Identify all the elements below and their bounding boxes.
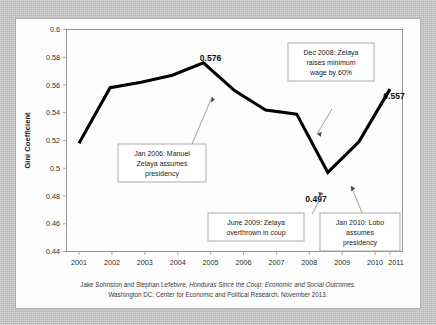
- citation-line-2: Washington DC: Center for Economic and P…: [108, 291, 327, 299]
- annotation-line: overthrown in coup: [226, 229, 285, 237]
- chart-figure: 0.6 0.58 0.56 0.54 0.52 0.5 0.48 0.46 0.…: [16, 19, 420, 308]
- annotation-line: June 2009: Zelaya: [227, 219, 285, 227]
- annotation-line: raises minimum: [306, 59, 355, 66]
- annotation-line: Dec 2008: Zelaya: [304, 49, 359, 57]
- y-tick-label: 0.5: [50, 164, 60, 173]
- x-tick-label: 2004: [170, 258, 186, 267]
- data-label-final: 0.557: [383, 91, 405, 101]
- x-tick-label: 2008: [301, 258, 317, 267]
- y-tick-label: 0.44: [46, 247, 60, 256]
- annotation-line: assumes: [346, 229, 375, 236]
- citation-period: .: [354, 281, 356, 288]
- annotation-line: wage by 60%: [309, 69, 352, 77]
- citation-line-1: Jake Sohnston and Stephan Lefebvre, Hond…: [80, 281, 356, 289]
- annotation-dec-2008[interactable]: Dec 2008: Zelaya raises minimum wage by …: [288, 43, 374, 81]
- x-axis: 2001 2002 2003 2004 2005 2006 2007 2008 …: [71, 252, 404, 268]
- annotation-line: presidency: [343, 239, 377, 247]
- annotation-line: Jan 2010: Lobo: [336, 219, 384, 226]
- x-tick-label: 2011: [388, 258, 403, 267]
- x-tick-label: 2005: [203, 258, 219, 267]
- y-tick-label: 0.52: [46, 136, 60, 145]
- source-citation: Jake Sohnston and Stephan Lefebvre, Hond…: [80, 281, 356, 299]
- chart-card: 0.6 0.58 0.56 0.54 0.52 0.5 0.48 0.46 0.…: [16, 19, 420, 308]
- annotation-june-2009[interactable]: June 2009: Zelaya overthrown in coup: [208, 213, 304, 241]
- y-tick-label: 0.58: [46, 53, 60, 62]
- annotation-line: presidency: [145, 170, 179, 178]
- x-tick-label: 2009: [334, 258, 350, 267]
- gini-line-chart: 0.6 0.58 0.56 0.54 0.52 0.5 0.48 0.46 0.…: [16, 19, 420, 308]
- y-tick-label: 0.54: [46, 108, 60, 117]
- y-tick-label: 0.46: [46, 219, 60, 228]
- y-tick-label: 0.48: [46, 192, 60, 201]
- annotation-leaders: [192, 97, 363, 215]
- annotation-line: Jan 2006: Manuel: [134, 150, 190, 157]
- data-label-peak: 0.576: [200, 53, 222, 63]
- citation-title: Honduras Since the Coup: Economic and So…: [189, 281, 355, 289]
- x-tick-label: 2010: [367, 258, 383, 267]
- x-tick-label: 2002: [104, 258, 120, 267]
- citation-authors: Jake Sohnston and Stephan Lefebvre,: [80, 281, 189, 289]
- y-axis-title: Gini Coefficient: [23, 112, 32, 169]
- x-tick-label: 2006: [236, 258, 252, 267]
- x-tick-label: 2007: [268, 258, 284, 267]
- x-tick-label: 2003: [137, 258, 153, 267]
- annotation-jan-2006[interactable]: Jan 2006: Manuel Zelaya assumes presiden…: [118, 144, 206, 182]
- x-tick-label: 2001: [71, 258, 87, 267]
- data-label-trough: 0.497: [305, 194, 327, 204]
- annotation-line: Zelaya assumes: [137, 160, 188, 168]
- y-axis: 0.6 0.58 0.56 0.54 0.52 0.5 0.48 0.46 0.…: [46, 25, 67, 256]
- y-tick-label: 0.56: [46, 81, 60, 90]
- y-tick-label: 0.6: [50, 25, 60, 34]
- annotation-jan-2010[interactable]: Jan 2010: Lobo assumes presidency: [320, 213, 400, 251]
